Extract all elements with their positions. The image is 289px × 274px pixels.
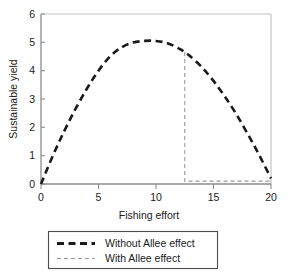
y-axis-title: Sustainable yield	[7, 59, 19, 139]
y-tick-label-2: 2	[29, 121, 35, 133]
y-tick-label-1: 1	[29, 149, 35, 161]
y-tick-label-5: 5	[29, 36, 35, 48]
sustainable-yield-chart: 0 1 2 3 4 5 6 0 5 10 15 20 Fishing effor…	[0, 0, 289, 274]
series-with-allee-effect-path	[185, 52, 271, 181]
x-axis-ticks	[41, 184, 271, 189]
chart-figure: 0 1 2 3 4 5 6 0 5 10 15 20 Fishing effor…	[0, 0, 289, 274]
x-tick-label-15: 15	[208, 191, 220, 203]
x-tick-label-0: 0	[38, 191, 44, 203]
y-tick-label-0: 0	[29, 178, 35, 190]
series-without-allee-effect-path	[41, 41, 271, 184]
series-without-allee-effect	[41, 41, 271, 184]
x-tick-label-5: 5	[96, 191, 102, 203]
y-tick-label-6: 6	[29, 8, 35, 20]
series-with-allee-effect	[185, 52, 271, 181]
chart-legend: Without Allee effect With Allee effect	[49, 232, 218, 269]
x-tick-label-10: 10	[150, 191, 162, 203]
x-tick-label-20: 20	[265, 191, 277, 203]
x-axis-title: Fishing effort	[119, 209, 180, 221]
legend-label-with-allee-effect: With Allee effect	[105, 252, 180, 264]
legend-label-without-allee-effect: Without Allee effect	[105, 237, 195, 249]
y-tick-label-4: 4	[29, 64, 35, 76]
y-tick-label-3: 3	[29, 93, 35, 105]
